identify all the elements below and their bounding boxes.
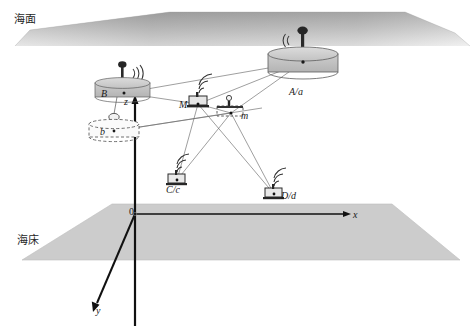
node-b-label: b bbox=[100, 126, 105, 137]
b-body-bottom bbox=[89, 137, 139, 142]
sea-surface-label: 海面 bbox=[14, 10, 36, 26]
node-B-label: B bbox=[101, 88, 107, 99]
y-axis-label: y bbox=[96, 305, 100, 316]
tether-B-b bbox=[114, 97, 117, 114]
antenna-head bbox=[118, 61, 126, 67]
node-C-anchor-point bbox=[176, 179, 179, 182]
node-D-anchor-point bbox=[273, 193, 276, 196]
b-body-top bbox=[89, 119, 139, 128]
m-base bbox=[217, 106, 243, 108]
diagram-canvas: 海面 海床 0 z x y B b A/a M m C/c D/d bbox=[0, 0, 470, 326]
C-fin bbox=[175, 170, 177, 175]
node-A-anchor-point bbox=[301, 60, 304, 63]
radio-waves-icon bbox=[199, 74, 212, 93]
radio-waves-icon bbox=[274, 168, 286, 186]
antenna-head bbox=[297, 27, 307, 35]
m-sensor bbox=[226, 95, 231, 100]
node-M-anchor-point bbox=[197, 103, 200, 106]
buoy-body-bottom bbox=[268, 72, 338, 79]
radio-waves-icon bbox=[177, 154, 189, 172]
diagram-svg bbox=[0, 0, 470, 326]
node-b-anchor-point bbox=[113, 130, 116, 133]
buoy-body-top bbox=[95, 78, 150, 89]
node-M-vehicle[interactable] bbox=[187, 74, 212, 107]
buoy-body-top bbox=[268, 47, 338, 61]
D-body bbox=[265, 188, 282, 197]
link-m-D bbox=[231, 113, 274, 194]
M-fin bbox=[196, 92, 198, 97]
C-body bbox=[168, 174, 185, 183]
link-M-C bbox=[177, 104, 198, 180]
node-m-anchor-point bbox=[230, 112, 233, 115]
node-m-vehicle[interactable] bbox=[217, 95, 243, 116]
x-axis-label: x bbox=[353, 209, 357, 220]
node-C-label: C/c bbox=[166, 184, 180, 195]
node-A-label: A/a bbox=[289, 86, 303, 97]
node-M-label: M bbox=[179, 99, 187, 110]
node-b-transducer[interactable] bbox=[89, 113, 139, 141]
node-B-anchor-point bbox=[123, 92, 126, 95]
origin-label: 0 bbox=[129, 206, 134, 217]
D-fin bbox=[272, 184, 274, 189]
sea-surface-plane bbox=[15, 12, 470, 46]
node-m-label: m bbox=[241, 110, 248, 121]
link-m-C bbox=[177, 113, 231, 180]
seabed-plane bbox=[22, 204, 460, 260]
node-D-label: D/d bbox=[281, 190, 296, 201]
link-M-D bbox=[198, 104, 274, 194]
z-axis-label: z bbox=[124, 96, 128, 107]
seabed-label: 海床 bbox=[17, 231, 39, 247]
